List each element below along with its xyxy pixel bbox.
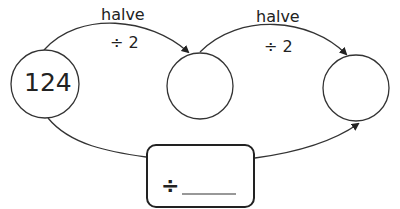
arrow-1-label-bottom: ÷ 2 xyxy=(110,33,139,52)
arrow-2-label-top: halve xyxy=(256,7,300,26)
diagram-canvas xyxy=(0,0,400,209)
circle-answer-1[interactable] xyxy=(167,53,233,119)
divide-icon: ÷ xyxy=(161,173,179,198)
circle-answer-2[interactable] xyxy=(323,55,389,121)
arrow-bottom-left xyxy=(48,118,146,157)
arrow-2-label-bottom: ÷ 2 xyxy=(264,37,293,56)
arrow-1-label-top: halve xyxy=(101,5,145,24)
start-value: 124 xyxy=(24,68,72,97)
arrow-bottom-right xyxy=(255,124,358,158)
